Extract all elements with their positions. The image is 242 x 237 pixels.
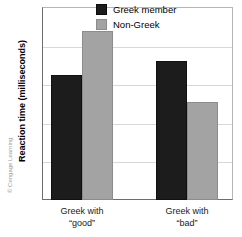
legend-item-greek-member: Greek member — [96, 4, 176, 15]
bar-greek-member — [51, 75, 82, 200]
bar-greek-member — [156, 61, 187, 200]
legend-swatch-icon — [96, 19, 107, 30]
bar-non-greek — [187, 102, 218, 200]
copyright-notice: © Cengage Learning — [7, 113, 13, 193]
x-axis-category-label: Greek with “bad” — [137, 205, 237, 229]
bar-chart: © Cengage Learning Reaction time (millis… — [0, 0, 242, 237]
y-axis-title: Reaction time (milliseconds) — [17, 21, 27, 181]
legend-label: Non-Greek — [113, 19, 159, 30]
chart-legend: Greek member Non-Greek — [96, 4, 176, 34]
legend-swatch-icon — [96, 4, 107, 15]
legend-label: Greek member — [113, 4, 176, 15]
x-axis-category-label: Greek with “good” — [32, 205, 132, 229]
bar-non-greek — [82, 31, 113, 200]
legend-item-non-greek: Non-Greek — [96, 19, 176, 30]
gridline — [43, 47, 232, 48]
